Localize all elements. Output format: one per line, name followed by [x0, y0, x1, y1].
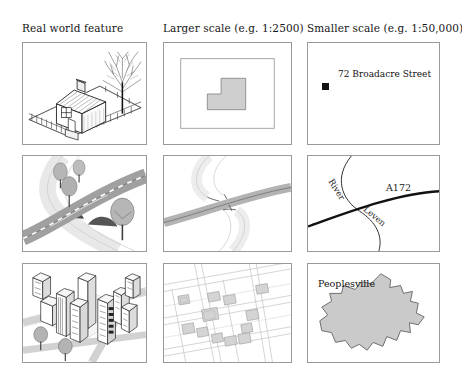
column-header-larger-scale: Larger scale (e.g. 1:2500) [163, 22, 292, 34]
panel-house-real-world [22, 42, 147, 145]
scale-generalization-figure: Real world feature Larger scale (e.g. 1:… [0, 0, 462, 387]
address-point-symbol [322, 83, 329, 90]
panel-town-larger-scale [163, 263, 292, 363]
panel-river-real-world [22, 155, 147, 252]
column-headers: Real world feature Larger scale (e.g. 1:… [0, 22, 462, 38]
panel-river-smaller-scale: River Leven A172 [307, 155, 440, 252]
panel-house-smaller-scale: 72 Broadacre Street [307, 42, 440, 145]
road-bridge-illustration [23, 156, 146, 251]
road-river-bands [164, 156, 291, 251]
road-label: A172 [386, 182, 411, 193]
panel-house-larger-scale [163, 42, 292, 145]
panel-river-larger-scale [163, 155, 292, 252]
column-header-real-world: Real world feature [22, 22, 147, 34]
settlement-label: Peoplesville [318, 278, 375, 289]
panel-town-smaller-scale: Peoplesville [307, 263, 440, 363]
street-block-plan [164, 264, 291, 362]
panel-town-real-world [22, 263, 147, 363]
road-river-lines [308, 156, 439, 251]
house-illustration [23, 43, 146, 144]
column-header-smaller-scale: Smaller scale (e.g. 1:50,000) [307, 22, 440, 34]
address-label: 72 Broadacre Street [338, 69, 431, 79]
city-illustration [23, 264, 146, 362]
building-footprint [164, 43, 291, 144]
